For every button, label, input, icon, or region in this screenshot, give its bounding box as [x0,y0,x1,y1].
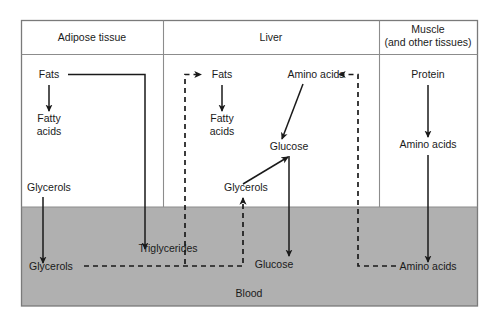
node-muscle-protein: Protein [411,68,444,80]
blood-region-label: Blood [236,287,263,299]
node-adipose-fatty-acids-line1: Fatty [37,112,61,124]
node-muscle-amino-acids: Amino acids [399,138,456,150]
node-blood-amino-acids: Amino acids [399,260,456,272]
node-blood-glycerols: Glycerols [29,260,73,272]
node-liver-amino-acids: Amino acids [287,68,344,80]
node-blood-triglycerides: Triglycerides [138,242,197,254]
header-muscle-line2: (and other tissues) [385,36,472,48]
flow-liver-amino-acids-to-glucose [282,84,303,139]
header-muscle-line1: Muscle [411,23,444,35]
node-adipose-fats: Fats [39,68,59,80]
header-adipose-tissue: Adipose tissue [58,31,126,43]
header-liver: Liver [260,31,283,43]
metabolism-diagram: Adipose tissue Liver Muscle (and other t… [0,0,497,324]
node-liver-fatty-acids-line2: acids [210,125,235,137]
flow-liver-glycerols-to-glucose [243,157,288,184]
node-liver-fats: Fats [212,68,232,80]
node-liver-glucose: Glucose [270,140,309,152]
node-liver-fatty-acids-line1: Fatty [210,112,234,124]
node-adipose-fatty-acids-line2: acids [37,125,62,137]
diagram-canvas: Adipose tissue Liver Muscle (and other t… [0,0,497,324]
node-adipose-glycerols: Glycerols [27,181,71,193]
node-blood-glucose: Glucose [255,258,294,270]
